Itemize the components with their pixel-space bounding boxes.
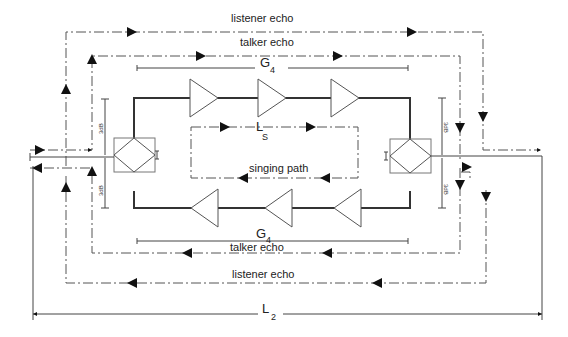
right-3db-markers: 3dB 3dB xyxy=(438,98,449,208)
arrow-right-icon xyxy=(306,122,316,132)
g4-top-subscript: 4 xyxy=(270,65,275,75)
arrow-left-icon xyxy=(322,248,332,258)
arrow-right-icon xyxy=(127,27,137,37)
amplifier-icon xyxy=(265,189,292,227)
arrow-up-icon xyxy=(61,182,71,192)
arrow-right-icon xyxy=(196,51,206,61)
arrow-right-icon xyxy=(35,145,45,155)
four-wire-circuit xyxy=(134,79,410,227)
echo-paths-diagram: 3dB 3dB 3dB 3dB G 4 G 4 L 2 listener ech… xyxy=(0,0,568,337)
arrow-down-icon xyxy=(478,112,488,122)
arrow-left-icon xyxy=(320,173,330,183)
singing-path-label: singing path xyxy=(249,162,308,174)
g4-bottom-label: G xyxy=(256,226,266,241)
arrow-left-icon xyxy=(182,248,192,258)
amplifier-icon xyxy=(190,79,218,117)
arrow-down-icon xyxy=(455,180,465,190)
amplifier-icon xyxy=(191,189,218,227)
l2-label: L xyxy=(262,301,269,316)
listener-echo-top-label: listener echo xyxy=(231,12,293,24)
amplifier-icon xyxy=(331,79,359,117)
arrow-right-icon xyxy=(220,122,230,132)
g4-top-label: G xyxy=(260,55,270,70)
arrow-left-icon xyxy=(372,278,382,288)
arrow-head-small-icon xyxy=(537,148,541,152)
arrow-up-icon xyxy=(61,84,71,94)
arrow-left-icon xyxy=(238,173,248,183)
talker-echo-top-label: talker echo xyxy=(240,36,294,48)
db-label-right-bottom: 3dB xyxy=(443,184,449,195)
arrow-down-icon xyxy=(481,192,491,202)
talker-echo-bottom-label: talker echo xyxy=(230,241,284,253)
arrow-left-icon xyxy=(127,278,137,288)
arrow-down-icon xyxy=(455,123,465,133)
g4-top-dimension: G 4 xyxy=(137,55,408,75)
amplifier-icon xyxy=(258,79,286,117)
ls-subscript: S xyxy=(262,132,268,142)
arrow-up-icon xyxy=(87,54,97,64)
listener-echo-bottom-label: listener echo xyxy=(232,268,294,280)
left-hybrid xyxy=(114,138,159,172)
arrow-head-small-icon xyxy=(538,312,542,316)
db-label-left-bottom: 3dB xyxy=(98,185,104,196)
db-label-right-top: 3dB xyxy=(443,122,449,133)
left-3db-markers: 3dB 3dB xyxy=(98,99,109,208)
amplifier-icon xyxy=(334,189,361,227)
arrow-head-small-icon xyxy=(33,312,37,316)
arrow-right-icon xyxy=(462,162,472,172)
arrow-right-icon xyxy=(407,27,417,37)
l2-subscript: 2 xyxy=(271,312,276,322)
arrow-head-small-icon xyxy=(88,148,92,152)
arrow-right-icon xyxy=(333,51,343,61)
l2-dimension: L 2 xyxy=(33,301,542,322)
db-label-left-top: 3dB xyxy=(98,123,104,134)
right-hybrid xyxy=(384,139,431,173)
